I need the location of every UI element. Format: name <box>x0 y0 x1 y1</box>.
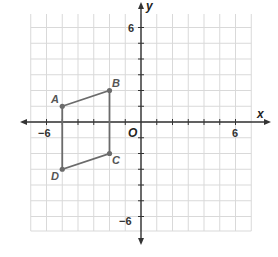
vertex-point-d <box>60 167 65 172</box>
origin-label: O <box>128 126 138 140</box>
vertex-label-d: D <box>51 170 59 182</box>
y-axis-label: y <box>145 0 154 13</box>
x-tick-label-6: 6 <box>232 127 238 139</box>
vertex-label-c: C <box>112 154 121 166</box>
y-axis-up-arrow-icon <box>138 2 144 9</box>
coordinate-plane: −6 6 6 −6 O x y A B C D <box>0 0 278 257</box>
y-tick-label-neg6: −6 <box>119 215 132 227</box>
x-axis-label: x <box>256 107 265 121</box>
quadrilateral-abcd <box>60 88 112 172</box>
x-axis-right-arrow-icon <box>264 119 271 125</box>
y-axis-down-arrow-icon <box>138 238 144 245</box>
vertex-label-a: A <box>50 93 59 105</box>
axes <box>20 2 271 245</box>
y-tick-label-6: 6 <box>128 22 134 34</box>
vertex-point-a <box>60 104 65 109</box>
x-axis-left-arrow-icon <box>20 119 27 125</box>
quadrilateral-outline <box>62 91 109 170</box>
labels: −6 6 6 −6 O x y A B C D <box>38 0 265 227</box>
x-tick-label-neg6: −6 <box>38 127 51 139</box>
vertex-label-b: B <box>112 77 120 89</box>
